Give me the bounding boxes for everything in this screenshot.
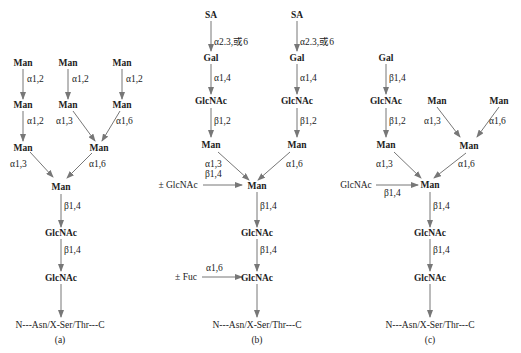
bond-label: α1,6 bbox=[116, 116, 133, 126]
node-glcnac: GlcNAc bbox=[414, 228, 446, 238]
glycan-structure-diagram: Man Man Man α1,2 α1,2 α1,2 Man Man Man α… bbox=[0, 0, 521, 353]
bond-label: α1,2 bbox=[126, 74, 143, 84]
node-man: Man bbox=[377, 140, 396, 150]
node-man: Man bbox=[113, 58, 132, 68]
bond-label: β1,2 bbox=[389, 116, 406, 126]
bond-label: β1,4 bbox=[260, 201, 277, 211]
bond-label: β1,4 bbox=[433, 245, 450, 255]
bond-label: α1,3 bbox=[376, 159, 393, 169]
bond-label: α1,2 bbox=[72, 74, 89, 84]
node-glcnac: GlcNAc bbox=[281, 96, 313, 106]
arrows-layer bbox=[0, 0, 521, 353]
bond-label: α2.3,或6 bbox=[214, 34, 248, 48]
bond-label: α1,3 bbox=[10, 159, 27, 169]
bond-label: α1,3 bbox=[424, 116, 441, 126]
node-sa: SA bbox=[291, 10, 303, 20]
node-man-core: Man bbox=[248, 181, 267, 191]
node-glcnac: GlcNAc bbox=[241, 228, 273, 238]
node-man: Man bbox=[14, 100, 33, 110]
bond-label: α1,6 bbox=[89, 159, 106, 169]
node-gal: Gal bbox=[379, 53, 394, 63]
bond-label: β1,4 bbox=[64, 245, 81, 255]
node-man: Man bbox=[59, 58, 78, 68]
node-man: Man bbox=[113, 100, 132, 110]
bond-label: β1,4 bbox=[384, 188, 401, 198]
node-glcnac: GlcNAc bbox=[241, 273, 273, 283]
node-man: Man bbox=[428, 96, 447, 106]
panel-label-c: (c) bbox=[425, 335, 436, 345]
panel-label-a: (a) bbox=[55, 335, 66, 345]
node-bisecting-glcnac: ± GlcNAc bbox=[158, 180, 197, 190]
node-man: Man bbox=[14, 143, 33, 153]
node-man: Man bbox=[14, 58, 33, 68]
bond-label: α1,4 bbox=[214, 73, 231, 83]
bond-label: α1,6 bbox=[206, 263, 223, 273]
bond-label: α1,2 bbox=[27, 74, 44, 84]
node-man: Man bbox=[90, 143, 109, 153]
peptide-sequence: N---Asn/X-Ser/Thr---C bbox=[213, 320, 302, 330]
node-man: Man bbox=[460, 141, 479, 151]
node-glcnac: GlcNAc bbox=[414, 273, 446, 283]
bond-label: α1,2 bbox=[27, 116, 44, 126]
node-fucose: ± Fuc bbox=[175, 272, 197, 282]
bond-label: α1,3 bbox=[56, 116, 73, 126]
bond-label: α2.3,或6 bbox=[300, 34, 334, 48]
bond-label: β1,2 bbox=[300, 116, 317, 126]
bond-label: α1,6 bbox=[458, 159, 475, 169]
node-glcnac: GlcNAc bbox=[370, 96, 402, 106]
node-man-core: Man bbox=[421, 180, 440, 190]
bond-label: α1,6 bbox=[286, 159, 303, 169]
node-gal: Gal bbox=[290, 53, 305, 63]
node-man-core: Man bbox=[52, 182, 71, 192]
bond-label: β1,4 bbox=[260, 245, 277, 255]
bond-label: β1,4 bbox=[433, 201, 450, 211]
panel-label-b: (b) bbox=[251, 335, 262, 345]
node-man: Man bbox=[288, 140, 307, 150]
bond-label: β1,2 bbox=[214, 116, 231, 126]
bond-label: β1,4 bbox=[64, 201, 81, 211]
node-man: Man bbox=[490, 96, 509, 106]
peptide-sequence: N---Asn/X-Ser/Thr---C bbox=[16, 320, 105, 330]
node-glcnac: GlcNAc bbox=[45, 228, 77, 238]
bond-label: α1,6 bbox=[489, 116, 506, 126]
node-sa: SA bbox=[205, 10, 217, 20]
node-man: Man bbox=[59, 100, 78, 110]
bond-label: α1,4 bbox=[300, 73, 317, 83]
node-glcnac: GlcNAc bbox=[195, 96, 227, 106]
bond-label: α1,3 bbox=[205, 159, 222, 169]
node-man: Man bbox=[202, 140, 221, 150]
node-bisecting-glcnac: GlcNAc bbox=[340, 180, 372, 190]
node-glcnac: GlcNAc bbox=[45, 273, 77, 283]
peptide-sequence: N---Asn/X-Ser/Thr---C bbox=[386, 320, 475, 330]
bond-label: β1,4 bbox=[205, 169, 222, 179]
bond-label: β1,4 bbox=[389, 73, 406, 83]
node-gal: Gal bbox=[204, 53, 219, 63]
